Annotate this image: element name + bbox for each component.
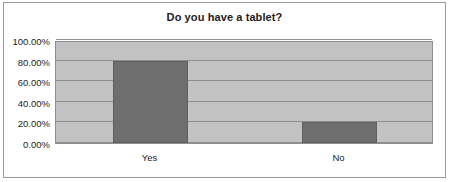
y-axis-tick-label: 80.00% xyxy=(0,56,50,67)
bar xyxy=(113,61,189,143)
y-axis-tick-label: 20.00% xyxy=(0,118,50,129)
chart-figure: Do you have a tablet? 0.00%20.00%40.00%6… xyxy=(0,0,449,182)
bar xyxy=(302,122,378,143)
plot-area xyxy=(55,41,433,144)
y-axis-tick-labels: 0.00%20.00%40.00%60.00%80.00%100.00% xyxy=(0,41,50,144)
x-axis-tick-labels: YesNo xyxy=(55,152,433,168)
y-axis-tick-label: 0.00% xyxy=(0,139,50,150)
y-axis-tick-label: 40.00% xyxy=(0,97,50,108)
x-axis-tick-label: Yes xyxy=(142,152,158,163)
x-axis-tick-label: No xyxy=(332,152,344,163)
bars-layer xyxy=(56,42,432,143)
y-axis-tick-label: 100.00% xyxy=(0,36,50,47)
chart-title: Do you have a tablet? xyxy=(0,11,449,23)
y-axis-tick-label: 60.00% xyxy=(0,77,50,88)
gridline xyxy=(56,39,432,40)
